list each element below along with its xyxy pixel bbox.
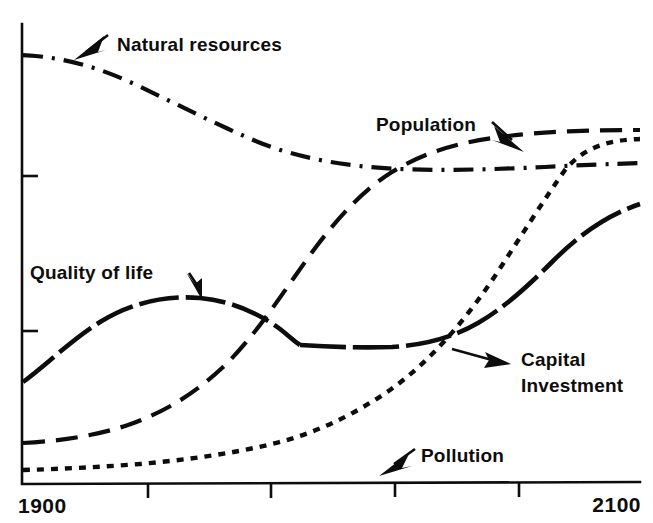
population-arrow-icon bbox=[492, 126, 524, 152]
axis-lines bbox=[22, 24, 640, 484]
curve-pollution bbox=[23, 139, 640, 470]
annotation-quality-of-life: Quality of life bbox=[30, 262, 202, 300]
capital-investment-leader-line bbox=[452, 349, 492, 360]
limits-to-growth-chart: 1900 2100 Natural resources bbox=[0, 0, 653, 523]
curve-population bbox=[23, 130, 640, 443]
curve-capital-investment bbox=[300, 204, 640, 347]
chart-figure: 1900 2100 Natural resources bbox=[0, 0, 653, 523]
annotation-pollution: Pollution bbox=[379, 445, 504, 476]
population-label: Population bbox=[376, 114, 476, 135]
curve-quality-of-life bbox=[23, 297, 300, 382]
pollution-label: Pollution bbox=[421, 445, 504, 466]
curve-natural-resources bbox=[23, 55, 640, 170]
x-axis-start-label: 1900 bbox=[18, 494, 67, 517]
natural-resources-label: Natural resources bbox=[117, 34, 282, 55]
capital-investment-label-line2: Investment bbox=[521, 375, 624, 396]
x-axis-end-label: 2100 bbox=[592, 493, 641, 516]
pollution-arrow-icon bbox=[379, 452, 412, 476]
annotation-natural-resources: Natural resources bbox=[74, 34, 282, 60]
y-axis-ticks bbox=[22, 56, 38, 331]
capital-investment-label-line1: Capital bbox=[521, 349, 586, 370]
natural-resources-arrow-icon bbox=[74, 36, 106, 60]
quality-of-life-label: Quality of life bbox=[30, 262, 153, 283]
annotation-capital-investment: Capital Investment bbox=[452, 349, 624, 396]
